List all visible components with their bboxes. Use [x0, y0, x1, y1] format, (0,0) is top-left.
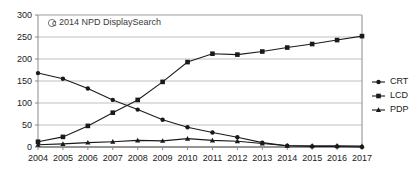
- circle-marker: [185, 125, 189, 129]
- square-marker: [376, 94, 381, 99]
- y-tick-label: 100: [17, 98, 32, 108]
- series-lcd: [36, 34, 365, 144]
- square-marker: [135, 98, 140, 103]
- x-tick-label: 2009: [153, 153, 173, 163]
- x-axis-ticks: 2004200520062007200820092010201120122013…: [28, 147, 372, 163]
- y-tick-label: 50: [22, 120, 32, 130]
- x-tick-label: 2004: [28, 153, 48, 163]
- y-tick-label: 150: [17, 76, 32, 86]
- circle-marker: [376, 80, 380, 84]
- y-tick-label: 250: [17, 32, 32, 42]
- circle-marker: [36, 71, 40, 75]
- x-tick-label: 2008: [128, 153, 148, 163]
- legend-label: CRT: [390, 76, 409, 86]
- x-tick-label: 2016: [327, 153, 347, 163]
- data-series-layer: [35, 34, 364, 149]
- circle-marker: [135, 107, 139, 111]
- circle-marker: [61, 77, 65, 81]
- square-marker: [110, 110, 115, 115]
- x-tick-label: 2014: [277, 153, 297, 163]
- legend-label: LCD: [390, 90, 409, 100]
- square-marker: [285, 45, 290, 50]
- circle-marker: [86, 86, 90, 90]
- x-tick-label: 2010: [178, 153, 198, 163]
- chart-legend: CRTLCDPDP: [372, 76, 409, 114]
- chart-container: 050100150200250300 200420052006200720082…: [0, 0, 417, 185]
- x-tick-label: 2017: [352, 153, 372, 163]
- copyright-annotation: c2014 NPD DisplaySearch: [48, 17, 161, 27]
- legend-item-crt[interactable]: CRT: [372, 76, 409, 86]
- square-marker: [235, 52, 240, 57]
- copyright-glyph: c: [52, 18, 57, 28]
- square-marker: [260, 49, 265, 54]
- series-crt: [36, 71, 364, 149]
- x-tick-label: 2015: [302, 153, 322, 163]
- x-tick-label: 2005: [53, 153, 73, 163]
- y-tick-label: 0: [27, 142, 32, 152]
- square-marker: [160, 80, 165, 85]
- copyright-text: 2014 NPD DisplaySearch: [59, 17, 161, 27]
- x-tick-label: 2006: [78, 153, 98, 163]
- series-line: [38, 73, 362, 147]
- legend-item-lcd[interactable]: LCD: [372, 90, 409, 100]
- line-chart: 050100150200250300 200420052006200720082…: [0, 0, 417, 185]
- square-marker: [310, 42, 315, 47]
- legend-item-pdp[interactable]: PDP: [372, 104, 409, 114]
- square-marker: [360, 34, 365, 39]
- x-tick-label: 2011: [203, 153, 222, 163]
- legend-label: PDP: [390, 104, 409, 114]
- circle-marker: [210, 130, 214, 134]
- square-marker: [335, 38, 340, 43]
- y-tick-label: 300: [17, 10, 32, 20]
- x-tick-label: 2007: [103, 153, 123, 163]
- square-marker: [185, 60, 190, 65]
- square-marker: [61, 135, 66, 140]
- circle-marker: [111, 98, 115, 102]
- y-axis-ticks: 050100150200250300: [17, 10, 38, 152]
- x-tick-label: 2012: [227, 153, 247, 163]
- square-marker: [86, 124, 91, 129]
- square-marker: [210, 51, 215, 56]
- circle-marker: [160, 118, 164, 122]
- x-tick-label: 2013: [252, 153, 272, 163]
- y-tick-label: 200: [17, 54, 32, 64]
